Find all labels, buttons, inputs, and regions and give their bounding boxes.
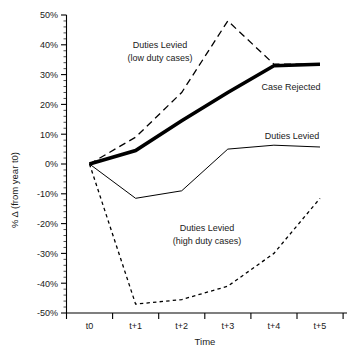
y-tick-label: -30% xyxy=(37,249,58,259)
annotation-duties-levied-line1: Duties Levied xyxy=(265,131,320,141)
x-tick-label: t+1 xyxy=(129,321,142,331)
y-tick-label: -20% xyxy=(37,219,58,229)
annotation-low-duty-line2: (low duty cases) xyxy=(127,53,192,63)
x-tick-label: t+5 xyxy=(314,321,327,331)
annotation-low-duty-line1: Duties Levied xyxy=(133,40,188,50)
y-tick-label: 0% xyxy=(45,159,58,169)
y-tick-label: 10% xyxy=(40,130,58,140)
annotation-duties-levied: Duties Levied xyxy=(265,131,320,141)
x-tick-label: t+3 xyxy=(221,321,234,331)
x-tick-label: t+4 xyxy=(268,321,281,331)
y-tick-label: 20% xyxy=(40,100,58,110)
y-tick-label: -50% xyxy=(37,308,58,318)
x-tick-label: t0 xyxy=(86,321,94,331)
y-tick-label: -10% xyxy=(37,189,58,199)
chart-container: 50% 40% 30% 20% 10% 0% -10% -20% -30% -4… xyxy=(0,0,357,358)
annotation-high-duty-line1: Duties Levied xyxy=(180,223,235,233)
annotation-high-duty-line2: (high duty cases) xyxy=(173,236,242,246)
y-tick-label: 30% xyxy=(40,70,58,80)
y-tick-label: -40% xyxy=(37,279,58,289)
annotation-case-rejected: Case Rejected xyxy=(261,82,320,92)
x-axis-title: Time xyxy=(195,336,216,347)
y-axis-title: % Δ (from year t0) xyxy=(9,152,20,228)
x-tick-label: t+2 xyxy=(175,321,188,331)
line-chart: 50% 40% 30% 20% 10% 0% -10% -20% -30% -4… xyxy=(0,0,357,358)
y-tick-label: 50% xyxy=(40,10,58,20)
annotation-case-rejected-line1: Case Rejected xyxy=(261,82,320,92)
y-tick-label: 40% xyxy=(40,40,58,50)
